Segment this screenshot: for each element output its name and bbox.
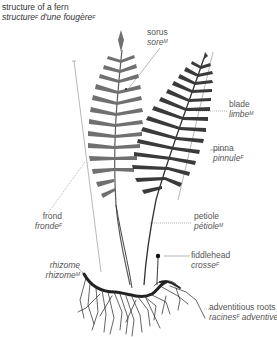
label-fr: rhizomeM — [38, 270, 80, 280]
label-frond: frond frondeF — [30, 211, 62, 231]
gender-marker: M — [164, 38, 168, 44]
label-fr: pinnuleF — [213, 153, 243, 163]
title-fr-word1: structure — [2, 12, 35, 22]
label-en: adventitious roots — [209, 302, 277, 312]
label-en: pinna — [213, 143, 243, 153]
title-english: structure of a fern — [2, 2, 95, 12]
label-fr-text: pétiole — [194, 221, 219, 231]
gender-marker: F — [59, 222, 62, 228]
label-fiddlehead: fiddlehead crosseF — [191, 250, 230, 270]
gender-marker: F — [216, 261, 219, 267]
gender-marker: F — [240, 154, 243, 160]
gender-marker: F — [92, 14, 95, 20]
label-en: frond — [30, 211, 62, 221]
label-blade: blade limbeM — [229, 99, 253, 119]
label-en: petiole — [194, 211, 223, 221]
label-fr-text: fronde — [35, 221, 59, 231]
title-fr-word2: fougère — [63, 12, 92, 22]
title-fr-mid: d'une — [38, 12, 63, 22]
label-fr: soreM — [147, 37, 168, 47]
fiddlehead-drawing — [156, 254, 160, 285]
label-en: blade — [229, 99, 253, 109]
label-adventitious-roots: adventitious roots racinesF adventives — [209, 302, 277, 322]
label-fr: pétioleM — [194, 221, 223, 231]
left-frond — [88, 30, 143, 285]
label-fr: racinesF adventives — [209, 312, 277, 322]
label-fr-text: pinnule — [213, 153, 240, 163]
label-en: sorus — [147, 27, 168, 37]
label-fr-text: limbe — [229, 109, 249, 119]
gender-marker: M — [76, 271, 80, 277]
fern-illustration — [0, 0, 277, 337]
label-fr: frondeF — [30, 221, 62, 231]
gender-marker: M — [219, 222, 223, 228]
label-en: fiddlehead — [191, 250, 230, 260]
label-en: rhizome — [38, 260, 80, 270]
label-sorus: sorus soreM — [147, 27, 168, 47]
label-pinna: pinna pinnuleF — [213, 143, 243, 163]
label-fr-text: rhizome — [46, 270, 76, 280]
label-rhizome: rhizome rhizomeM — [38, 260, 80, 280]
label-petiole: petiole pétioleM — [194, 211, 223, 231]
gender-marker: M — [249, 110, 253, 116]
label-fr: limbeM — [229, 109, 253, 119]
label-fr-text2: adventives — [239, 312, 277, 322]
label-fr-text: sore — [147, 37, 164, 47]
label-fr-text: crosse — [191, 260, 216, 270]
label-fr: crosseF — [191, 260, 230, 270]
label-fr-text: racines — [209, 312, 236, 322]
page-title: structure of a fern structureF d'une fou… — [2, 2, 95, 22]
rhizome-drawing — [78, 274, 205, 336]
title-french: structureF d'une fougèreF — [2, 12, 95, 22]
